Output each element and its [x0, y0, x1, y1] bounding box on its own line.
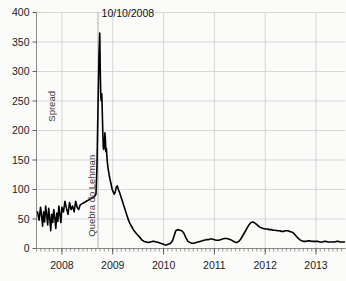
x-tick-label-2008: 2008: [50, 259, 74, 271]
annotation-event-label: Quebra do Lehman: [86, 155, 97, 237]
x-tick-label-2013: 2013: [304, 259, 328, 271]
annotation-series-label: Spread: [46, 91, 57, 122]
x-tick-label-2012: 2012: [254, 259, 278, 271]
annotation-peak-date: 10/10/2008: [102, 7, 155, 19]
y-tick-label-100: 100: [12, 183, 30, 195]
y-tick-label-150: 150: [12, 154, 30, 166]
y-tick-label-250: 250: [12, 95, 30, 107]
spread-line-chart: 050100150200250300350400 200820092010201…: [0, 0, 346, 281]
y-tick-label-0: 0: [24, 242, 30, 254]
x-tick-label-2009: 2009: [101, 259, 125, 271]
x-tick-label-2011: 2011: [203, 259, 226, 271]
y-tick-label-200: 200: [12, 124, 30, 136]
y-tick-label-300: 300: [12, 65, 30, 77]
y-tick-label-50: 50: [18, 213, 30, 225]
x-tick-label-2010: 2010: [152, 259, 176, 271]
chart-container: 050100150200250300350400 200820092010201…: [0, 0, 346, 281]
y-tick-label-400: 400: [12, 6, 30, 18]
y-tick-label-350: 350: [12, 36, 30, 48]
